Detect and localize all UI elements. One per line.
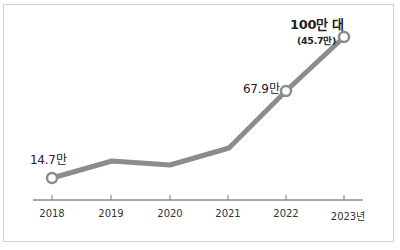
label-2023-main: 100만 대 — [290, 14, 344, 33]
label-2022: 67.9만 — [243, 79, 279, 96]
x-tick-label: 2023년 — [331, 208, 365, 223]
label-2018: 14.7만 — [30, 150, 66, 167]
x-tick-label: 2019 — [98, 208, 123, 219]
x-tick-label: 2018 — [39, 208, 64, 219]
data-point-marker — [47, 173, 57, 183]
data-point-marker — [281, 86, 291, 96]
data-point-marker — [339, 32, 349, 42]
x-tick-label: 2021 — [215, 208, 240, 219]
x-tick-label: 2022 — [273, 208, 298, 219]
label-2023-sub: (45.7만) — [297, 33, 336, 47]
data-line — [52, 37, 344, 178]
x-tick-label: 2020 — [157, 208, 182, 219]
